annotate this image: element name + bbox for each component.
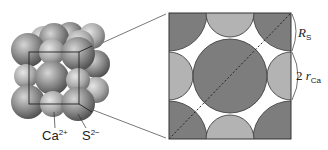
rs-label: RS bbox=[297, 25, 311, 42]
crystal-diagram: Ca2+ S2− RS 2 rCa bbox=[0, 0, 328, 150]
rca-label: 2 rCa bbox=[296, 68, 322, 85]
ball-model bbox=[11, 22, 110, 128]
ca-ion-label: Ca2+ bbox=[42, 128, 68, 143]
s-ion-label: S2− bbox=[82, 128, 100, 143]
